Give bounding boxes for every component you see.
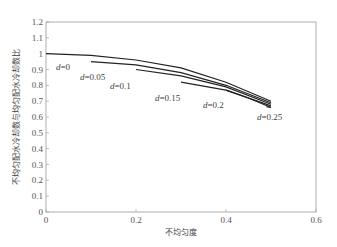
y-tick-label: 0.4: [32, 144, 44, 154]
curve-label: d=0.1: [110, 81, 131, 91]
x-tick-label: 0.4: [220, 215, 232, 225]
y-tick-label: 0.6: [32, 112, 44, 122]
chart: 00.10.20.30.40.50.60.70.80.911.11.2 00.2…: [0, 0, 337, 247]
y-tick-label: 1: [39, 49, 44, 59]
y-tick-label: 0.3: [32, 160, 44, 170]
y-tick-label: 0.7: [32, 96, 44, 106]
curve-label: d=0.2: [203, 100, 224, 110]
x-axis-ticks: 00.20.40.6: [44, 209, 322, 225]
x-tick-label: 0: [44, 215, 49, 225]
curve-label: d=0.15: [155, 93, 181, 103]
y-tick-label: 1.2: [32, 17, 43, 27]
x-tick-label: 0.6: [310, 215, 322, 225]
curve-label: d=0.25: [257, 112, 283, 122]
y-axis-ticks: 00.10.20.30.40.50.60.70.80.911.11.2: [32, 17, 49, 217]
y-axis-title: 不均匀配水冷却数与均匀配水冷却数比: [11, 49, 21, 185]
y-tick-label: 1.1: [32, 33, 43, 43]
curve-label: d=0: [56, 62, 71, 72]
x-tick-label: 0.2: [130, 215, 141, 225]
curve-d-0-25: [267, 107, 272, 108]
y-tick-label: 0: [39, 207, 44, 217]
y-tick-label: 0.1: [32, 191, 43, 201]
x-axis-title: 不均匀度: [165, 227, 197, 237]
y-tick-label: 0.8: [32, 80, 44, 90]
curve-label: d=0.05: [80, 72, 106, 82]
y-tick-label: 0.5: [32, 128, 44, 138]
y-tick-label: 0.2: [32, 175, 43, 185]
y-tick-label: 0.9: [32, 65, 44, 75]
